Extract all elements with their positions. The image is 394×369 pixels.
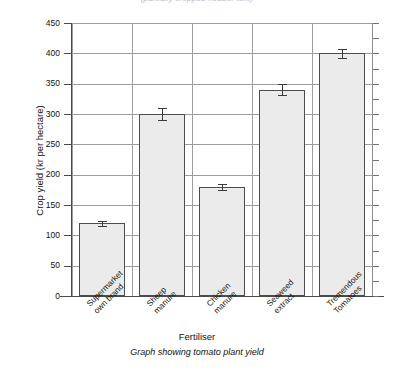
y-axis-tick (64, 266, 72, 267)
y-axis-tick-label: 400 (0, 49, 60, 58)
gridline-vertical (252, 23, 253, 296)
y-axis-tick (64, 23, 72, 24)
y-axis-right-tick (373, 114, 379, 115)
y-axis-tick-label: 300 (0, 110, 60, 119)
y-axis-tick (64, 175, 72, 176)
error-bar (342, 49, 343, 57)
gridline-horizontal (72, 23, 372, 24)
y-axis-right-tick (373, 175, 379, 176)
y-axis-right-tick (373, 220, 379, 221)
y-axis-right-tick (373, 38, 379, 39)
error-bar-cap (338, 58, 347, 59)
y-axis-right-tick (373, 99, 379, 100)
error-bar-cap (218, 184, 227, 185)
y-axis-right-tick (373, 281, 379, 282)
error-bar-cap (158, 120, 167, 121)
error-bar-cap (158, 108, 167, 109)
y-axis-tick-label: 450 (0, 19, 60, 28)
error-bar (162, 108, 163, 120)
y-axis-tick (64, 296, 72, 297)
y-axis-tick-label: 200 (0, 170, 60, 179)
y-axis-tick-label: 150 (0, 201, 60, 210)
y-axis-tick (64, 235, 72, 236)
error-bar-cap (278, 95, 287, 96)
gridline-vertical (312, 23, 313, 296)
y-axis-right-tick (373, 144, 379, 145)
y-axis-tick-label: 350 (0, 79, 60, 88)
error-bar-cap (278, 84, 287, 85)
error-bar-cap (338, 49, 347, 50)
y-axis-tick-label: 250 (0, 140, 60, 149)
y-axis-right-tick (373, 296, 379, 297)
y-axis-tick (64, 53, 72, 54)
y-axis-tick-label: 0 (0, 292, 60, 301)
y-axis-tick (64, 144, 72, 145)
error-bar-cap (218, 190, 227, 191)
y-axis-tick (64, 114, 72, 115)
bar-chart-figure: Crop yield (kr per hectare) Fertiliser G… (0, 0, 394, 369)
y-axis-tick-label: 100 (0, 231, 60, 240)
y-axis-right-tick (373, 53, 379, 54)
y-axis-tick-label: 50 (0, 261, 60, 270)
error-bar-cap (98, 221, 107, 222)
gridline-vertical (132, 23, 133, 296)
y-axis-tick (64, 84, 72, 85)
gridline-vertical (192, 23, 193, 296)
y-axis-right-tick (373, 23, 379, 24)
y-axis-right-tick (373, 129, 379, 130)
bar (259, 90, 305, 296)
gridline-vertical (72, 23, 73, 296)
error-bar-cap (98, 226, 107, 227)
error-bar (282, 84, 283, 95)
figure-caption: Graph showing tomato plant yield (0, 347, 394, 357)
y-axis-right-tick (373, 266, 379, 267)
y-axis-right-tick (373, 251, 379, 252)
y-axis-right-tick (373, 69, 379, 70)
x-axis-title: Fertiliser (0, 331, 394, 342)
y-axis-right-tick (373, 84, 379, 85)
bar (199, 187, 245, 296)
y-axis-right-tick (373, 160, 379, 161)
y-axis-tick (64, 205, 72, 206)
y-axis-right-tick (373, 205, 379, 206)
bar (139, 114, 185, 296)
y-axis-right-tick (373, 190, 379, 191)
y-axis-right-tick (373, 235, 379, 236)
y-axis-line (71, 23, 72, 297)
bar (319, 53, 365, 296)
